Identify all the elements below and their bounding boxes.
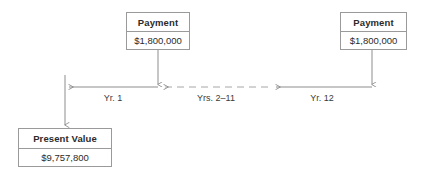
timeline-label-yrs-2-11: Yrs. 2–11 xyxy=(181,92,251,104)
present-value-box-value: $9,757,800 xyxy=(19,149,111,167)
present-value-box: Present Value $9,757,800 xyxy=(18,128,112,167)
payment-box-year-1: Payment $1,800,000 xyxy=(126,12,190,50)
payment-box-year-1-value: $1,800,000 xyxy=(127,32,189,50)
payment-box-year-12-header: Payment xyxy=(341,13,406,32)
payment-box-year-12: Payment $1,800,000 xyxy=(340,12,407,50)
present-value-box-header: Present Value xyxy=(19,129,111,149)
timeline-label-yr-12: Yr. 12 xyxy=(292,92,352,104)
diagram-canvas: Payment $1,800,000 Payment $1,800,000 Pr… xyxy=(0,0,423,176)
timeline-label-yr-1: Yr. 1 xyxy=(83,92,143,104)
payment-box-year-1-header: Payment xyxy=(127,13,189,32)
payment-box-year-12-value: $1,800,000 xyxy=(341,32,406,50)
